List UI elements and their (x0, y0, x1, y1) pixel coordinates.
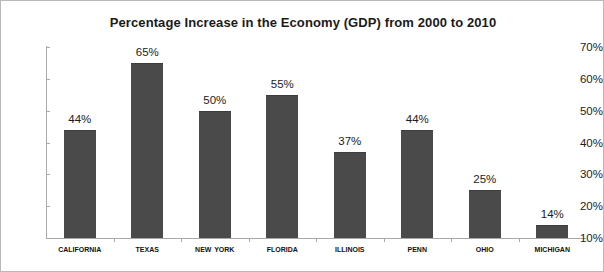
bar-value-label: 50% (185, 94, 245, 106)
y-axis-tick-label: 50% (567, 105, 603, 117)
x-axis-tick-mark (249, 238, 250, 242)
x-axis-category-label: California (46, 243, 114, 254)
x-axis-category-label: Michigan (519, 243, 587, 254)
y-axis-tick-mark (46, 206, 50, 207)
bar (266, 95, 298, 238)
x-axis-tick-mark (519, 238, 520, 242)
x-axis-tick-mark (384, 238, 385, 242)
bar (131, 63, 163, 238)
chart-container: Percentage Increase in the Economy (GDP)… (0, 0, 604, 272)
bar-value-label: 55% (252, 78, 312, 90)
x-axis-tick-mark (316, 238, 317, 242)
x-axis-tick-mark (114, 238, 115, 242)
bar-value-label: 14% (522, 208, 582, 220)
y-axis-tick-mark (46, 143, 50, 144)
bar (469, 190, 501, 238)
chart-title: Percentage Increase in the Economy (GDP)… (1, 15, 604, 30)
y-axis-tick-mark (46, 174, 50, 175)
bar-value-label: 25% (455, 173, 515, 185)
bar (334, 152, 366, 238)
bar (536, 225, 568, 238)
y-axis-tick-label: 30% (567, 168, 603, 180)
bar-value-label: 65% (117, 46, 177, 58)
y-axis-tick-label: 40% (567, 137, 603, 149)
x-axis-tick-mark (451, 238, 452, 242)
x-axis-category-label: Texas (114, 243, 182, 254)
y-axis-tick-mark (46, 111, 50, 112)
x-axis-category-label: Florida (249, 243, 317, 254)
x-axis-category-label: Illinois (316, 243, 384, 254)
y-axis-tick-mark (46, 238, 50, 239)
x-axis-category-label: Ohio (451, 243, 519, 254)
y-axis-tick-mark (46, 79, 50, 80)
x-axis-category-label: Penn (384, 243, 452, 254)
y-axis-tick-mark (46, 47, 50, 48)
bar-value-label: 44% (50, 113, 110, 125)
bar-value-label: 37% (320, 135, 380, 147)
x-axis-category-label: New York (181, 243, 249, 254)
bar (64, 130, 96, 238)
y-axis-tick-label: 60% (567, 73, 603, 85)
bar (199, 111, 231, 238)
x-axis-tick-mark (181, 238, 182, 242)
bar (401, 130, 433, 238)
y-axis-tick-label: 70% (567, 41, 603, 53)
bar-value-label: 44% (387, 113, 447, 125)
